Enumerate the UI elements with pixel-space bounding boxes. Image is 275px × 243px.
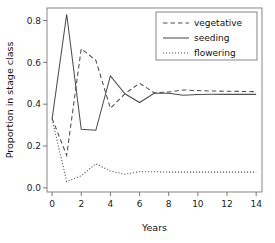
x-tick-label: 14 [250,199,262,209]
x-axis-ticks: 02468101214 [49,192,262,209]
x-tick-label: 2 [78,199,84,209]
y-tick-label: 0.6 [27,58,42,68]
x-axis-title: Years [141,222,167,233]
y-tick-label: 0.2 [27,141,41,151]
x-tick-label: 0 [49,199,55,209]
legend-label-seeding: seeding [194,33,229,43]
x-tick-label: 8 [166,199,172,209]
y-tick-label: 0.0 [27,183,42,193]
y-axis-title: Proportion in stage class [4,42,15,159]
series-line-vegetative [52,49,256,156]
series-line-flowering [52,119,256,181]
x-tick-label: 4 [108,199,114,209]
x-tick-label: 10 [192,199,204,209]
legend-label-flowering: flowering [194,48,236,58]
y-axis-ticks: 0.00.20.40.60.8 [27,16,47,193]
x-tick-label: 12 [221,199,232,209]
x-tick-label: 6 [137,199,143,209]
y-tick-label: 0.4 [27,99,42,109]
line-chart: 0.00.20.40.60.8 02468101214 Years Propor… [0,0,275,243]
chart-figure: 0.00.20.40.60.8 02468101214 Years Propor… [0,0,275,243]
y-tick-label: 0.8 [27,16,42,26]
legend-label-vegetative: vegetative [194,18,243,28]
chart-legend: vegetativeseedingflowering [156,12,257,60]
